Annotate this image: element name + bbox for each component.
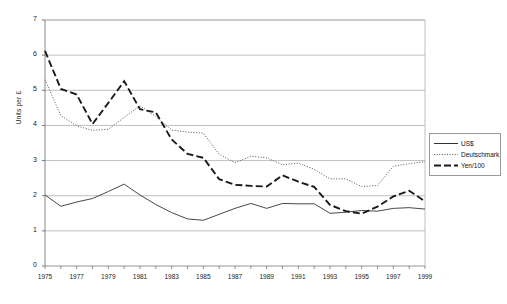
legend-label-deutschmark: Deutschmark	[461, 151, 499, 158]
y-tick-label: 1	[21, 226, 37, 233]
legend-swatch-dotted	[433, 150, 459, 159]
legend-item-usd: US$	[433, 138, 497, 149]
y-axis-title: Units per £	[15, 68, 22, 148]
y-tick-label: 3	[21, 156, 37, 163]
legend-swatch-dashed	[433, 161, 459, 170]
series-line-deutschmark	[45, 80, 425, 187]
chart-legend: US$ Deutschmark Yen/100	[429, 133, 501, 176]
legend-swatch-solid	[433, 139, 459, 148]
y-tick-label: 5	[21, 85, 37, 92]
x-tick-label: 1999	[405, 273, 445, 280]
y-tick-label: 6	[21, 50, 37, 57]
gridlines	[45, 20, 425, 266]
legend-label-usd: US$	[461, 140, 474, 147]
axis-lines	[42, 20, 425, 266]
y-tick-label: 7	[21, 15, 37, 22]
legend-label-yen: Yen/100	[461, 162, 485, 169]
series-line-us	[45, 184, 425, 220]
y-tick-label: 4	[21, 120, 37, 127]
legend-item-yen: Yen/100	[433, 160, 497, 171]
line-chart: Units per £ 01234567 1975197719791981198…	[0, 0, 507, 304]
y-tick-label: 0	[21, 261, 37, 268]
series-line-yen-100	[45, 51, 425, 214]
x-tick-marks	[45, 266, 425, 269]
legend-item-deutschmark: Deutschmark	[433, 149, 497, 160]
y-tick-label: 2	[21, 191, 37, 198]
series-lines	[45, 51, 425, 220]
